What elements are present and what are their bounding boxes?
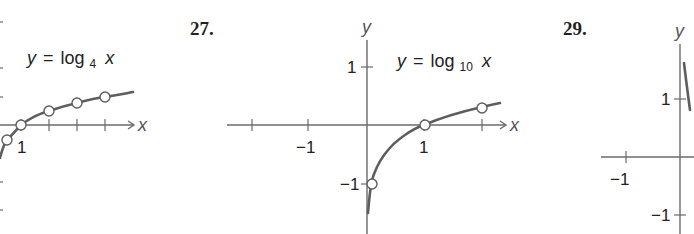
eq-base: 10 bbox=[460, 60, 474, 74]
x-tick-label-1: 1 bbox=[419, 138, 428, 157]
y-tick-label-1: 1 bbox=[661, 90, 670, 109]
eq-lhs: y bbox=[395, 51, 407, 71]
graph-29: 29. −1 y 1 −1 bbox=[563, 18, 694, 234]
data-point bbox=[16, 120, 26, 130]
problem-number-29: 29. bbox=[563, 18, 587, 39]
x-tick-label-neg1: −1 bbox=[610, 170, 629, 189]
data-point bbox=[72, 98, 82, 108]
graph-log10: 27. x −1 1 y 1 −1 y = log 10 x bbox=[190, 17, 520, 234]
eq-arg: x bbox=[104, 48, 115, 68]
data-point bbox=[2, 135, 12, 145]
graph-log4: x 1 y = log 4 x bbox=[0, 22, 148, 210]
eq-sign: = bbox=[413, 51, 424, 71]
figure-canvas: x 1 y = log 4 x 27. x −1 1 y bbox=[0, 0, 694, 234]
data-point bbox=[367, 179, 377, 189]
x-axis-label: x bbox=[509, 115, 520, 135]
equation-log10: y = log 10 x bbox=[395, 51, 492, 75]
eq-sign: = bbox=[43, 48, 54, 68]
eq-fn: log bbox=[61, 48, 85, 68]
x-axis-label: x bbox=[137, 115, 148, 135]
partial-curve bbox=[684, 63, 690, 110]
y-tick-label-neg1: −1 bbox=[340, 175, 359, 194]
problem-number-27: 27. bbox=[190, 18, 214, 39]
data-point bbox=[420, 120, 430, 130]
log10-curve bbox=[368, 103, 500, 213]
eq-base: 4 bbox=[90, 57, 97, 71]
y-tick-label-1: 1 bbox=[347, 58, 356, 77]
y-axis-label: y bbox=[673, 21, 685, 41]
eq-lhs: y bbox=[25, 48, 37, 68]
data-point bbox=[44, 106, 54, 116]
x-tick-label-neg1: −1 bbox=[296, 138, 315, 157]
x-tick-label-1: 1 bbox=[17, 138, 26, 157]
y-axis-label: y bbox=[360, 17, 372, 37]
eq-fn: log bbox=[431, 51, 455, 71]
equation-log4: y = log 4 x bbox=[25, 48, 115, 72]
data-point bbox=[100, 92, 110, 102]
y-tick-label-neg1: −1 bbox=[651, 206, 670, 225]
data-point bbox=[477, 103, 487, 113]
eq-arg: x bbox=[481, 51, 492, 71]
